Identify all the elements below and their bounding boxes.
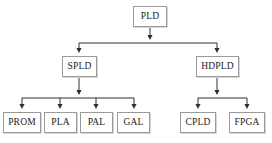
edge-hdpld-to-children (198, 77, 247, 107)
node-fpga[interactable]: FPGA (229, 112, 265, 133)
node-gal[interactable]: GAL (117, 112, 150, 133)
edge-pld-to-children (79, 27, 217, 51)
node-prom[interactable]: PROM (3, 112, 41, 133)
node-cpld[interactable]: CPLD (180, 112, 216, 133)
edge-spld-to-children (22, 77, 134, 107)
node-gal-label: GAL (123, 118, 143, 128)
node-spld-label: SPLD (67, 62, 91, 72)
node-hdpld[interactable]: HDPLD (196, 56, 239, 77)
node-pla[interactable]: PLA (44, 112, 77, 133)
node-pal-label: PAL (88, 118, 106, 128)
node-pla-label: PLA (51, 118, 70, 128)
node-pal[interactable]: PAL (80, 112, 113, 133)
diagram-canvas: PLD SPLD HDPLD PROM PLA PAL GAL CPLD FPG… (0, 0, 272, 143)
node-hdpld-label: HDPLD (201, 62, 234, 72)
node-pld-label: PLD (141, 12, 160, 22)
node-fpga-label: FPGA (234, 118, 259, 128)
node-cpld-label: CPLD (185, 118, 210, 128)
node-pld[interactable]: PLD (133, 6, 167, 27)
node-prom-label: PROM (8, 118, 36, 128)
node-spld[interactable]: SPLD (62, 56, 97, 77)
